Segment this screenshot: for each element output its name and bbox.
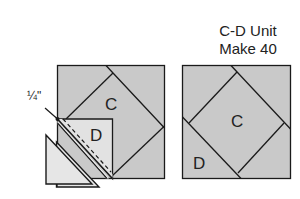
right-block-finished: C D [183,66,291,179]
right-label-c: C [231,112,243,131]
quilt-diagram: ¼" C D C D [0,0,300,199]
left-label-c: C [105,95,117,114]
seam-allowance-label: ¼" [27,89,41,103]
left-label-d: D [90,126,102,145]
right-label-d: D [193,154,205,173]
seam-arrow-dot [56,117,60,121]
seam-arrow-line [45,108,57,119]
